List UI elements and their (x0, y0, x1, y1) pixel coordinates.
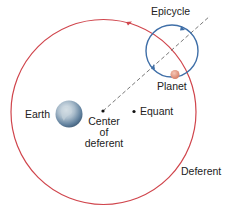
equant-dot (132, 110, 135, 113)
center-of-deferent-label: Center of deferent (84, 116, 124, 149)
planet-icon (171, 70, 180, 79)
deferent-label: Deferent (181, 166, 221, 177)
planet-label: Planet (157, 81, 187, 92)
epicycle-label: Epicycle (151, 6, 190, 17)
ptolemaic-diagram (0, 0, 232, 210)
center-label-line3: deferent (84, 138, 124, 149)
earth-label: Earth (25, 109, 50, 120)
center-of-deferent-dot (101, 109, 104, 112)
equant-label: Equant (140, 106, 173, 117)
